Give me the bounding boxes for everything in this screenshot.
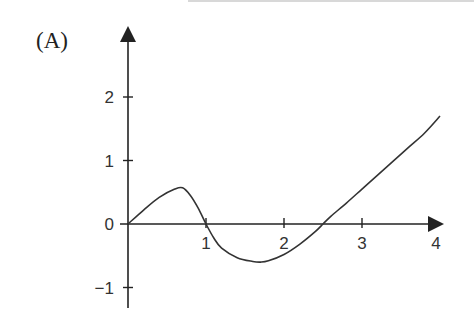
- y-tick-label: 1: [105, 152, 114, 171]
- x-tick-label: 2: [279, 234, 288, 253]
- y-tick-label: 0: [105, 215, 114, 234]
- x-tick-label: 1: [201, 234, 210, 253]
- y-tick-label: −1: [95, 279, 114, 298]
- y-tick-label: 2: [105, 88, 114, 107]
- line-chart: 210−1 1234: [0, 0, 474, 313]
- x-tick-label: 3: [357, 234, 366, 253]
- x-tick-label: 4: [431, 234, 440, 253]
